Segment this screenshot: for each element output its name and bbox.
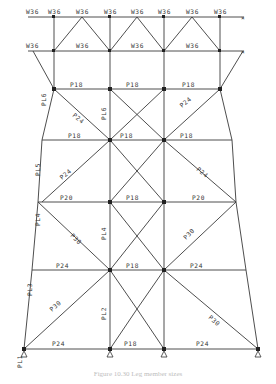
level2-labels: P18 P18 P18: [68, 132, 193, 139]
svg-text:PL1: PL1: [16, 355, 23, 368]
svg-text:PL3: PL3: [26, 283, 33, 296]
svg-text:P24: P24: [58, 167, 72, 181]
svg-text:W36: W36: [158, 8, 171, 15]
level1-labels: P18 P18 P18: [70, 81, 195, 88]
svg-text:W36: W36: [186, 8, 199, 15]
svg-text:P24: P24: [71, 111, 85, 125]
svg-text:W36: W36: [76, 8, 89, 15]
support-icons: [21, 351, 261, 357]
svg-text:P18: P18: [126, 81, 139, 88]
svg-text:PL2: PL2: [100, 307, 107, 320]
top-chord-labels: W36 W36 W36 W36 W36 W36 W36 W36: [26, 8, 227, 15]
svg-text:P30: P30: [182, 227, 196, 241]
svg-text:W36: W36: [104, 8, 117, 15]
svg-text:P18: P18: [126, 194, 139, 201]
svg-text:P24: P24: [190, 262, 203, 269]
svg-text:P30: P30: [69, 232, 83, 246]
arrow-end-icon: ×: [241, 14, 245, 21]
svg-text:P18: P18: [180, 132, 193, 139]
figure-caption: Figure 10.30 Leg member sizes: [0, 370, 276, 378]
svg-text:W36: W36: [48, 8, 61, 15]
svg-text:W36: W36: [131, 42, 144, 49]
level4-labels: P24 P18 P24: [56, 262, 203, 269]
svg-text:W36: W36: [186, 42, 199, 49]
svg-text:P24: P24: [178, 95, 192, 109]
svg-text:W36: W36: [131, 8, 144, 15]
svg-text:P30: P30: [48, 299, 62, 313]
base-labels: P24 P18 P24: [52, 340, 209, 347]
truss-diagram: × ×: [0, 0, 276, 384]
svg-text:P18: P18: [126, 262, 139, 269]
svg-text:PL4: PL4: [100, 227, 107, 240]
svg-text:PL4: PL4: [34, 213, 41, 226]
svg-text:PL6: PL6: [100, 107, 107, 120]
svg-text:P24: P24: [52, 340, 65, 347]
svg-text:P24: P24: [56, 262, 69, 269]
svg-text:PL6: PL6: [40, 93, 47, 106]
svg-text:P30: P30: [207, 314, 221, 328]
svg-text:P18: P18: [182, 81, 195, 88]
svg-text:W36: W36: [214, 8, 227, 15]
svg-text:P18: P18: [70, 81, 83, 88]
level3-labels: P20 P18 P20: [60, 194, 205, 201]
leg-labels: PL6 PL5 PL4 PL3 PL1 PL6 PL4 PL2: [16, 93, 107, 368]
svg-text:W36: W36: [26, 8, 39, 15]
svg-text:P18: P18: [120, 132, 133, 139]
svg-text:PL5: PL5: [34, 163, 41, 176]
svg-text:P18: P18: [124, 340, 137, 347]
svg-text:W36: W36: [76, 42, 89, 49]
svg-text:P20: P20: [192, 194, 205, 201]
svg-text:P20: P20: [60, 194, 73, 201]
svg-text:W36: W36: [26, 42, 39, 49]
diagonal-labels: P24 P24 P24 P24 P30 P30 P30 P30: [48, 95, 222, 327]
svg-text:P24: P24: [196, 340, 209, 347]
svg-text:P18: P18: [68, 132, 81, 139]
